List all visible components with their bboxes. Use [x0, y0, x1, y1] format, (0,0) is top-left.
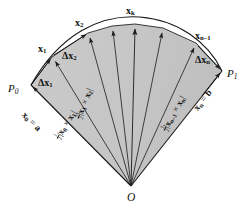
label-origin: O — [127, 192, 135, 204]
label-p0-letter: P — [8, 82, 15, 94]
label-x2-sub: 2 — [80, 21, 83, 28]
label-delta-x2-sub: 2 — [73, 54, 76, 61]
label-p0-sub: 0 — [15, 87, 19, 96]
label-delta-x1-sub: 1 — [49, 81, 52, 88]
label-xk-sub: k — [131, 9, 135, 16]
label-delta-x1: Δx1 — [38, 78, 53, 89]
label-p1-sub: 1 — [234, 72, 238, 81]
label-delta-xn-sub: n — [206, 58, 210, 65]
label-p1-letter: P — [227, 67, 234, 79]
label-delta-xn: Δxn — [195, 55, 210, 66]
label-x2: x2 — [75, 18, 83, 29]
label-p1: P1 — [227, 68, 237, 80]
label-delta-x2-letter: Δx — [62, 50, 73, 61]
label-x1-sub: 1 — [43, 47, 46, 54]
label-xk: xk — [126, 6, 135, 17]
label-delta-xn-letter: Δx — [195, 54, 206, 65]
label-delta-x2: Δx2 — [62, 51, 77, 62]
label-delta-x1-letter: Δx — [38, 77, 49, 88]
label-x1: x1 — [38, 44, 46, 55]
label-xn-1: xn–1 — [195, 31, 211, 42]
fan-sector-diagram — [0, 0, 249, 213]
label-origin-letter: O — [127, 191, 135, 203]
label-p0: P0 — [8, 83, 18, 95]
label-xn-1-sub: n–1 — [200, 34, 211, 41]
